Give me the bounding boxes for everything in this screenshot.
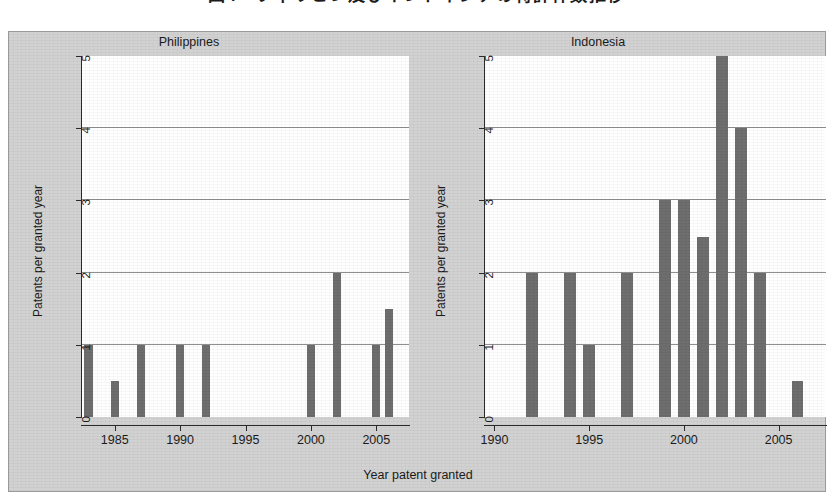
bar-philippines-2006: [385, 309, 393, 417]
x-tick-label-philippines-1995: 1995: [224, 433, 268, 447]
x-tick-philippines-1985: [115, 426, 116, 431]
x-tick-label-indonesia-2005: 2005: [757, 433, 801, 447]
screenshot-root: 図4 フィリピン及びインドネシアの特許件数推移 Philippines Pate…: [0, 0, 833, 502]
x-axis-line-indonesia: [484, 425, 827, 426]
y-tick-label-indonesia-2: 2: [483, 272, 495, 286]
y-tick-label-philippines-1: 1: [80, 344, 92, 358]
x-tick-label-indonesia-1990: 1990: [472, 433, 516, 447]
gridline-y-3: [82, 199, 409, 200]
y-tick-label-indonesia-3: 3: [483, 199, 495, 213]
document-title-text: 図4 フィリピン及びインドネシアの特許件数推移: [208, 0, 626, 6]
x-tick-label-philippines-1990: 1990: [158, 433, 202, 447]
bar-philippines-2005: [372, 345, 380, 417]
bar-indonesia-2000: [678, 200, 690, 417]
bar-indonesia-2002: [716, 56, 728, 417]
plot-area-philippines: [82, 56, 409, 417]
x-tick-indonesia-2000: [684, 426, 685, 431]
bar-indonesia-1999: [659, 200, 671, 417]
figure-container: Philippines Patents per granted year 012…: [8, 31, 826, 492]
gridline-y-4: [485, 127, 826, 128]
x-tick-philippines-2000: [311, 426, 312, 431]
bar-indonesia-2006: [792, 381, 804, 417]
x-tick-label-philippines-2000: 2000: [289, 433, 333, 447]
bar-philippines-1990: [176, 345, 184, 417]
y-tick-label-philippines-3: 3: [80, 199, 92, 213]
x-tick-label-philippines-1985: 1985: [93, 433, 137, 447]
panel-philippines: Philippines Patents per granted year 012…: [9, 32, 409, 493]
bar-indonesia-1995: [583, 345, 595, 417]
y-tick-label-philippines-2: 2: [80, 272, 92, 286]
bar-indonesia-2003: [735, 128, 747, 417]
x-tick-label-philippines-2005: 2005: [354, 433, 398, 447]
y-tick-label-philippines-4: 4: [80, 127, 92, 141]
bar-philippines-1987: [137, 345, 145, 417]
cropped-document-title: 図4 フィリピン及びインドネシアの特許件数推移: [0, 0, 833, 20]
panel-indonesia: Indonesia Patents per granted year 01234…: [413, 32, 827, 493]
gridline-y-1: [82, 344, 409, 345]
gridline-y-3: [485, 199, 826, 200]
x-tick-indonesia-1990: [494, 426, 495, 431]
x-tick-label-indonesia-2000: 2000: [662, 433, 706, 447]
y-tick-label-indonesia-0: 0: [483, 416, 495, 430]
x-tick-indonesia-1995: [589, 426, 590, 431]
x-tick-philippines-2005: [376, 426, 377, 431]
bar-indonesia-2001: [697, 237, 709, 418]
gridline-y-4: [82, 127, 409, 128]
panel-title-philippines: Philippines: [0, 35, 389, 49]
bar-indonesia-1994: [564, 273, 576, 417]
bar-indonesia-2004: [754, 273, 766, 417]
y-tick-label-indonesia-4: 4: [483, 127, 495, 141]
y-axis-line-indonesia: [484, 56, 485, 418]
x-axis-title-shared: Year patent granted: [9, 468, 827, 482]
y-tick-label-indonesia-1: 1: [483, 344, 495, 358]
bar-indonesia-1992: [526, 273, 538, 417]
bar-philippines-2002: [333, 273, 341, 417]
plot-area-indonesia: [485, 56, 826, 417]
bar-philippines-1985: [111, 381, 119, 417]
y-tick-label-philippines-5: 5: [80, 55, 92, 69]
gridline-y-2: [82, 272, 409, 273]
y-tick-label-indonesia-5: 5: [483, 55, 495, 69]
bar-indonesia-1997: [621, 273, 633, 417]
y-axis-title-indonesia: Patents per granted year: [434, 185, 448, 317]
bar-philippines-1992: [202, 345, 210, 417]
x-tick-indonesia-2005: [779, 426, 780, 431]
x-tick-philippines-1995: [246, 426, 247, 431]
panel-title-indonesia: Indonesia: [391, 35, 805, 49]
bar-philippines-2000: [307, 345, 315, 417]
x-tick-label-indonesia-1995: 1995: [567, 433, 611, 447]
y-axis-line-philippines: [81, 56, 82, 418]
x-tick-philippines-1990: [180, 426, 181, 431]
y-axis-title-philippines: Patents per granted year: [31, 185, 45, 317]
y-tick-label-philippines-0: 0: [80, 416, 92, 430]
